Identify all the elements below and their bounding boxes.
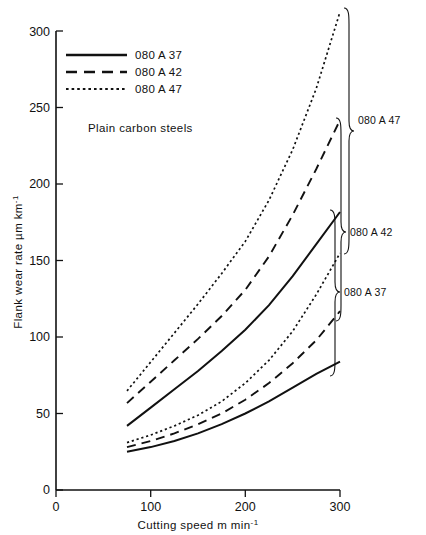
x-tick-label-300: 300 [330, 500, 351, 514]
x-axis-title-text: Cutting speed m min [138, 519, 251, 531]
x-axis-title-exponent: -1 [251, 518, 259, 527]
y-tick-label-0: 0 [43, 483, 50, 497]
y-tick-label-200: 200 [29, 177, 50, 191]
y-tick-labels: 0 50 100 150 200 250 300 [29, 25, 50, 497]
y-tick-label-300: 300 [29, 25, 50, 39]
brace-label-080-a-47: 080 A 47 [358, 114, 400, 126]
svg-text:Flank wear rate µm km-1: Flank wear rate µm km-1 [11, 195, 24, 329]
brace-label-080-a-42: 080 A 42 [350, 226, 392, 238]
y-tick-label-250: 250 [29, 101, 50, 115]
y-axis-title-text: Flank wear rate [12, 244, 24, 329]
y-tick-marks [56, 31, 63, 490]
x-tick-labels: 0 100 200 300 [53, 500, 351, 514]
line-chart: 0 50 100 150 200 250 300 0 100 200 300 C… [0, 0, 426, 535]
y-tick-label-100: 100 [29, 330, 50, 344]
y-tick-label-150: 150 [29, 254, 50, 268]
legend-label-080-a-42: 080 A 42 [135, 66, 182, 78]
y-tick-label-50: 50 [36, 407, 50, 421]
legend-label-080-a-47: 080 A 47 [135, 83, 182, 95]
x-tick-label-0: 0 [53, 500, 60, 514]
curve-080-a-47-lower [127, 253, 340, 442]
x-axis-title: Cutting speed m min-1 [138, 518, 259, 531]
figure-container: 0 50 100 150 200 250 300 0 100 200 300 C… [0, 0, 426, 535]
y-axis-title: Flank wear rate µm km-1 [11, 195, 24, 329]
y-axis-title-units: µm km [12, 203, 24, 240]
x-tick-label-100: 100 [140, 500, 161, 514]
legend: 080 A 37 080 A 42 080 A 47 [66, 49, 182, 95]
y-axis-title-exponent: -1 [11, 195, 20, 203]
brace-group-080-a-47: 080 A 47 [344, 8, 400, 254]
curve-080-a-42-upper [127, 120, 340, 403]
plot-annotation-plain-carbon-steels: Plain carbon steels [88, 122, 193, 134]
brace-label-080-a-37: 080 A 37 [344, 286, 386, 298]
svg-text:Cutting speed m min-1: Cutting speed m min-1 [138, 518, 259, 531]
curve-080-a-37-upper [127, 212, 340, 426]
x-tick-label-200: 200 [235, 500, 256, 514]
x-tick-marks [56, 490, 340, 497]
legend-label-080-a-37: 080 A 37 [135, 49, 182, 61]
